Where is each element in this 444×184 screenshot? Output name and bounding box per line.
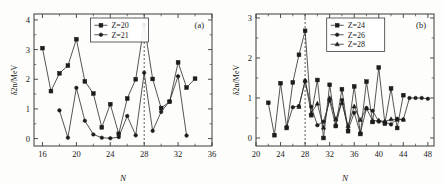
- data-point: [142, 71, 146, 75]
- data-point: [74, 37, 78, 41]
- y-tick-label: 2: [26, 74, 30, 84]
- x-tick-label: 20: [72, 149, 81, 159]
- x-tick-label: 36: [350, 149, 359, 159]
- figure-container: 16202428323601234Nδ2n/MeV(a)Z=20Z=21 202…: [0, 0, 444, 184]
- legend-label: Z=28: [348, 40, 365, 49]
- data-point: [414, 96, 418, 100]
- x-tick-label: 36: [208, 149, 217, 159]
- data-point: [108, 102, 112, 106]
- series-polyline: [287, 81, 428, 133]
- x-tick-label: 28: [301, 149, 310, 159]
- x-tick-label: 48: [424, 149, 433, 159]
- y-tick-label: 0: [26, 134, 30, 144]
- data-point: [125, 97, 129, 101]
- data-point: [322, 136, 326, 140]
- data-point: [401, 93, 405, 97]
- x-tick-label: 24: [276, 149, 285, 159]
- data-point: [315, 101, 319, 105]
- legend-marker: [335, 33, 339, 37]
- x-tick-label: 32: [174, 149, 183, 159]
- data-point: [185, 86, 189, 90]
- x-tick-label: 44: [399, 149, 408, 159]
- plot-svg: 20242832364044480123Nδ2n/MeV(b)Z=24Z=26Z…: [222, 0, 444, 184]
- data-point: [315, 78, 319, 82]
- y-tick-label: 0: [248, 133, 252, 143]
- data-point: [371, 109, 375, 113]
- data-point: [125, 114, 129, 118]
- data-point: [168, 99, 172, 103]
- data-point: [266, 101, 270, 105]
- legend-label: Z=20: [111, 21, 128, 30]
- data-point: [389, 87, 393, 91]
- x-tick-label: 32: [325, 149, 334, 159]
- legend-label: Z=26: [348, 31, 365, 40]
- x-axis-title: N: [119, 173, 127, 183]
- data-point: [359, 131, 363, 135]
- data-point: [100, 125, 104, 129]
- data-point: [426, 97, 430, 101]
- data-point: [185, 134, 189, 138]
- data-point: [389, 117, 393, 121]
- data-point: [134, 77, 138, 81]
- data-point: [279, 81, 283, 85]
- series-polyline: [59, 73, 186, 139]
- data-point: [151, 129, 155, 133]
- data-point: [41, 46, 45, 50]
- x-tick-label: 40: [375, 149, 384, 159]
- data-point: [389, 123, 393, 127]
- legend-marker: [99, 33, 103, 37]
- data-point: [334, 124, 338, 128]
- data-point: [328, 83, 332, 87]
- data-point: [134, 134, 138, 138]
- data-point: [395, 126, 399, 130]
- data-point: [100, 136, 104, 140]
- legend-marker: [335, 23, 339, 27]
- y-axis-title: δ2n/MeV: [232, 65, 241, 96]
- data-point: [176, 74, 180, 78]
- data-point: [117, 135, 121, 139]
- data-point: [151, 77, 155, 81]
- y-tick-label: 1: [26, 104, 30, 114]
- y-axis-title: δ2n/MeV: [10, 65, 19, 96]
- data-point: [291, 81, 295, 85]
- data-point: [316, 123, 320, 127]
- legend-label: Z=24: [348, 21, 365, 30]
- y-tick-label: 2: [248, 53, 252, 63]
- x-tick-label: 24: [106, 149, 115, 159]
- data-point: [176, 60, 180, 64]
- data-point: [340, 87, 344, 91]
- data-point: [58, 109, 62, 113]
- data-point: [365, 80, 369, 84]
- legend-label: Z=21: [111, 31, 128, 40]
- data-point: [75, 86, 79, 90]
- chart-panel-a: 16202428323601234Nδ2n/MeV(a)Z=20Z=21: [0, 0, 222, 184]
- data-point: [352, 104, 356, 108]
- data-point: [297, 53, 301, 57]
- data-point: [346, 128, 350, 132]
- data-point: [352, 85, 356, 89]
- data-point: [83, 119, 87, 123]
- data-point: [291, 105, 295, 109]
- x-tick-label: 20: [252, 149, 261, 159]
- data-point: [285, 125, 289, 129]
- legend-marker: [99, 23, 103, 27]
- data-point: [92, 133, 96, 137]
- data-point: [108, 136, 112, 140]
- data-point: [159, 106, 163, 110]
- data-point: [273, 133, 277, 137]
- data-point: [193, 77, 197, 81]
- y-tick-label: 3: [26, 45, 30, 55]
- data-point: [377, 66, 381, 70]
- data-point: [66, 64, 70, 68]
- x-tick-label: 16: [38, 149, 47, 159]
- y-tick-label: 3: [248, 13, 252, 23]
- x-axis-title: N: [341, 173, 349, 183]
- data-point: [83, 79, 87, 83]
- x-tick-label: 28: [140, 149, 149, 159]
- data-point: [91, 92, 95, 96]
- data-point: [408, 96, 412, 100]
- data-point: [58, 71, 62, 75]
- data-point: [49, 89, 53, 93]
- series-z-21: [58, 71, 189, 140]
- data-point: [66, 136, 70, 140]
